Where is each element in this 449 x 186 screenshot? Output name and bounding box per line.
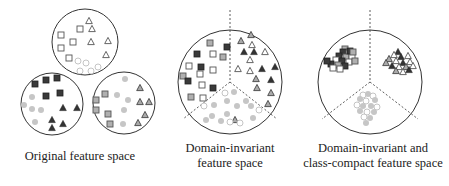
- caption-class-compact: Domain-invariant and class-compact featu…: [298, 141, 448, 171]
- caption-class-compact-line1: Domain-invariant and: [298, 141, 448, 156]
- panel-class-compact: [318, 10, 422, 134]
- caption-original-line1: Original feature space: [5, 149, 155, 164]
- right-domain-markers: [93, 76, 152, 127]
- caption-class-compact-line2: class-compact feature space: [298, 156, 448, 171]
- circle-class-cluster: [201, 89, 262, 126]
- caption-original: Original feature space: [5, 149, 155, 164]
- compact-circle-cluster: [354, 91, 380, 126]
- triangle-class-cluster: [235, 31, 279, 106]
- caption-domain-invariant: Domain-invariant feature space: [170, 141, 290, 171]
- top-domain-markers: [58, 17, 111, 74]
- compact-triangle-cluster: [383, 48, 417, 74]
- panel-original: [21, 9, 155, 135]
- caption-domain-invariant-line2: feature space: [170, 156, 290, 171]
- panel-domain-invariant: [178, 10, 282, 134]
- decision-boundary-right: [230, 82, 277, 119]
- left-domain-markers: [21, 75, 80, 131]
- decision-boundary-left: [183, 82, 230, 119]
- caption-domain-invariant-line1: Domain-invariant: [170, 141, 290, 156]
